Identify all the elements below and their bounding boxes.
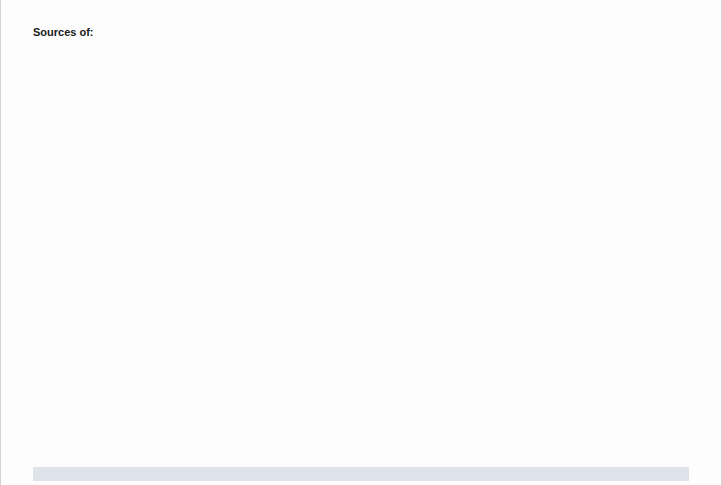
chart-page: Sources of: xyxy=(0,0,722,485)
page-title: Sources of: xyxy=(33,26,94,38)
page-edge-left xyxy=(0,0,1,485)
footer-strip xyxy=(33,467,689,481)
